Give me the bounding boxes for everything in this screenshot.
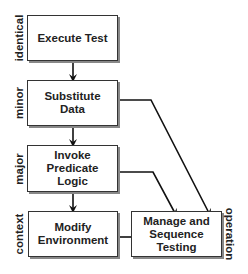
- node-label: Substitute Data: [44, 90, 100, 116]
- node-substitute-data: Substitute Data: [27, 80, 118, 126]
- node-execute-test: Execute Test: [27, 15, 118, 61]
- edge-substitute-manage: [106, 100, 210, 215]
- label-operation: operation: [224, 208, 236, 260]
- node-label: Manage and Sequence Testing: [143, 215, 209, 254]
- node-label: Execute Test: [37, 32, 107, 45]
- label-identical: identical: [13, 15, 25, 62]
- node-modify-environment: Modify Environment: [28, 211, 118, 257]
- node-label: Invoke Predicate Logic: [47, 149, 99, 188]
- node-label: Modify Environment: [38, 221, 108, 247]
- node-manage-sequence-testing: Manage and Sequence Testing: [131, 211, 222, 257]
- node-invoke-predicate-logic: Invoke Predicate Logic: [27, 145, 118, 192]
- label-context: context: [13, 214, 25, 255]
- label-major: major: [13, 153, 25, 184]
- label-minor: minor: [13, 87, 25, 119]
